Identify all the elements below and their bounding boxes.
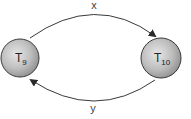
edge-y-arrow: [31, 80, 155, 101]
state-diagram: x y T9 T10: [0, 0, 191, 119]
node-t10: T10: [141, 38, 181, 78]
edge-y-label: y: [90, 102, 96, 114]
edge-x: x: [30, 0, 155, 38]
edge-x-label: x: [91, 0, 97, 11]
node-t10-subscript: 10: [161, 58, 170, 67]
edge-x-arrow: [30, 14, 155, 38]
edge-y: y: [31, 80, 155, 114]
node-t9: T9: [1, 39, 39, 77]
node-t9-subscript: 9: [22, 58, 27, 67]
